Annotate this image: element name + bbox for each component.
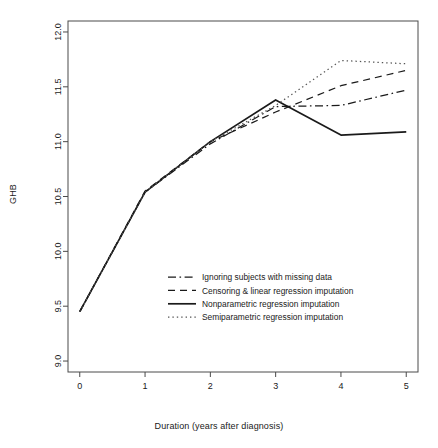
x-tick-label: 3 — [273, 381, 278, 391]
chart-legend: Ignoring subjects with missing dataCenso… — [168, 272, 354, 322]
chart-figure: GHB Duration (years after diagnosis) 9.0… — [0, 0, 438, 448]
legend-label-2: Nonparametric regression imputation — [202, 299, 340, 309]
legend-label-0: Ignoring subjects with missing data — [202, 272, 332, 282]
y-tick-label: 12.0 — [53, 23, 63, 41]
x-tick-label: 5 — [404, 381, 409, 391]
x-axis-ticks: 012345 — [77, 372, 409, 391]
legend-label-1: Censoring & linear regression imputation — [202, 286, 354, 296]
chart-plot-area: 9.09.510.010.511.011.512.0 012345 Ignori… — [0, 0, 438, 448]
y-tick-label: 11.0 — [53, 133, 63, 150]
x-tick-label: 2 — [208, 381, 213, 391]
y-tick-label: 9.5 — [53, 300, 63, 313]
x-tick-label: 4 — [338, 381, 343, 391]
y-tick-label: 9.0 — [53, 355, 63, 368]
x-tick-label: 1 — [143, 381, 148, 391]
y-tick-label: 10.0 — [53, 243, 63, 261]
y-tick-label: 11.5 — [53, 78, 63, 95]
x-tick-label: 0 — [77, 381, 82, 391]
legend-label-3: Semiparametric regression imputation — [202, 312, 343, 322]
y-tick-label: 10.5 — [53, 188, 63, 206]
y-axis-ticks: 9.09.510.010.511.011.512.0 — [53, 23, 68, 367]
